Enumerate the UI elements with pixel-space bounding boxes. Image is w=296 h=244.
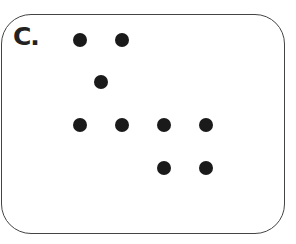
diagram-panel: [1, 14, 285, 234]
dot: [157, 161, 171, 175]
dot: [157, 118, 171, 132]
panel-label: C.: [13, 24, 39, 49]
dot: [73, 33, 87, 47]
dot: [115, 33, 129, 47]
dot: [199, 118, 213, 132]
dot: [115, 118, 129, 132]
dot: [73, 118, 87, 132]
dot: [199, 161, 213, 175]
dot: [94, 75, 108, 89]
